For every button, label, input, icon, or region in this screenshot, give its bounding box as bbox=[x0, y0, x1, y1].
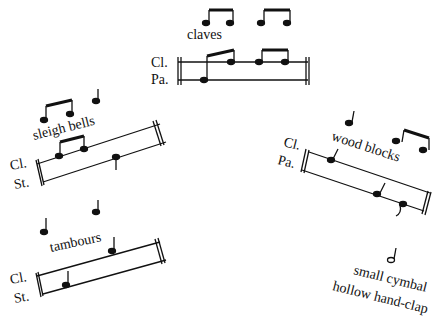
tambours-header-notes bbox=[41, 200, 100, 235]
claves-staff-label-1: Cl. bbox=[151, 55, 168, 71]
wood-blocks-staff bbox=[301, 149, 431, 216]
claves-staff-label-2: Pa. bbox=[151, 72, 169, 88]
small-cymbal-note bbox=[388, 248, 397, 263]
claves-staff bbox=[178, 50, 309, 85]
sleigh-bells-staff-label-2: St. bbox=[13, 174, 31, 192]
tambours-staff-label-2: St. bbox=[13, 288, 31, 306]
sleigh-bells-staff-label-1: Cl. bbox=[9, 155, 28, 174]
claves-title: claves bbox=[187, 27, 222, 43]
claves-header-notes bbox=[203, 10, 291, 26]
tambours-staff-label-1: Cl. bbox=[9, 269, 28, 288]
